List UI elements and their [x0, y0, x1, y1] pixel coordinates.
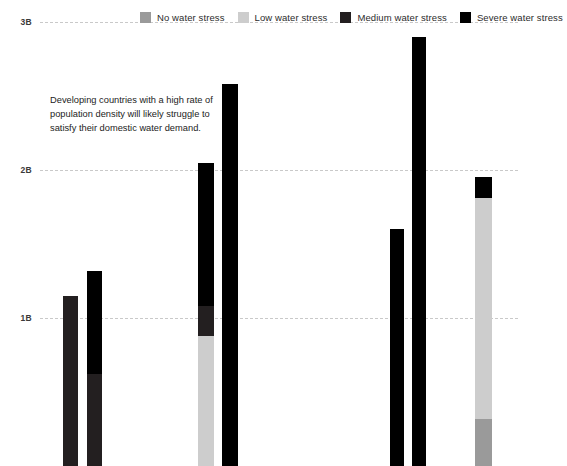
bar-segment[interactable]: [475, 177, 492, 198]
legend-item[interactable]: Low water stress: [238, 12, 328, 23]
bar[interactable]: [198, 163, 214, 466]
bar-segment[interactable]: [198, 336, 214, 466]
y-axis-tick-label: 2B: [0, 165, 32, 175]
bar[interactable]: [412, 37, 426, 466]
gridline: [40, 318, 518, 319]
bar-segment[interactable]: [475, 419, 492, 466]
bar-segment[interactable]: [390, 229, 404, 466]
bar[interactable]: [63, 296, 78, 466]
bar-segment[interactable]: [87, 374, 102, 466]
chart-annotation: Developing countries with a high rate of…: [50, 93, 220, 136]
y-axis-tick-label: 3B: [0, 17, 32, 27]
chart-legend: No water stressLow water stressMedium wa…: [140, 12, 567, 23]
gridline: [40, 170, 518, 171]
bar-segment[interactable]: [412, 37, 426, 466]
bar-segment[interactable]: [198, 163, 214, 307]
bar[interactable]: [87, 271, 102, 466]
bar[interactable]: [390, 229, 404, 466]
legend-item-label: Low water stress: [255, 12, 328, 23]
legend-swatch-icon: [140, 12, 151, 23]
legend-item[interactable]: Severe water stress: [460, 12, 563, 23]
bar[interactable]: [222, 84, 238, 466]
legend-swatch-icon: [460, 12, 471, 23]
legend-item-label: No water stress: [157, 12, 225, 23]
bar-segment[interactable]: [198, 306, 214, 336]
bar[interactable]: [475, 177, 492, 466]
bar-segment[interactable]: [475, 198, 492, 419]
legend-item[interactable]: No water stress: [140, 12, 225, 23]
legend-item-label: Severe water stress: [477, 12, 563, 23]
bar-segment[interactable]: [63, 296, 78, 466]
bar-segment[interactable]: [87, 271, 102, 375]
legend-swatch-icon: [340, 12, 351, 23]
bar-segment[interactable]: [222, 84, 238, 466]
legend-swatch-icon: [238, 12, 249, 23]
legend-item-label: Medium water stress: [357, 12, 447, 23]
y-axis-tick-label: 1B: [0, 313, 32, 323]
legend-item[interactable]: Medium water stress: [340, 12, 447, 23]
